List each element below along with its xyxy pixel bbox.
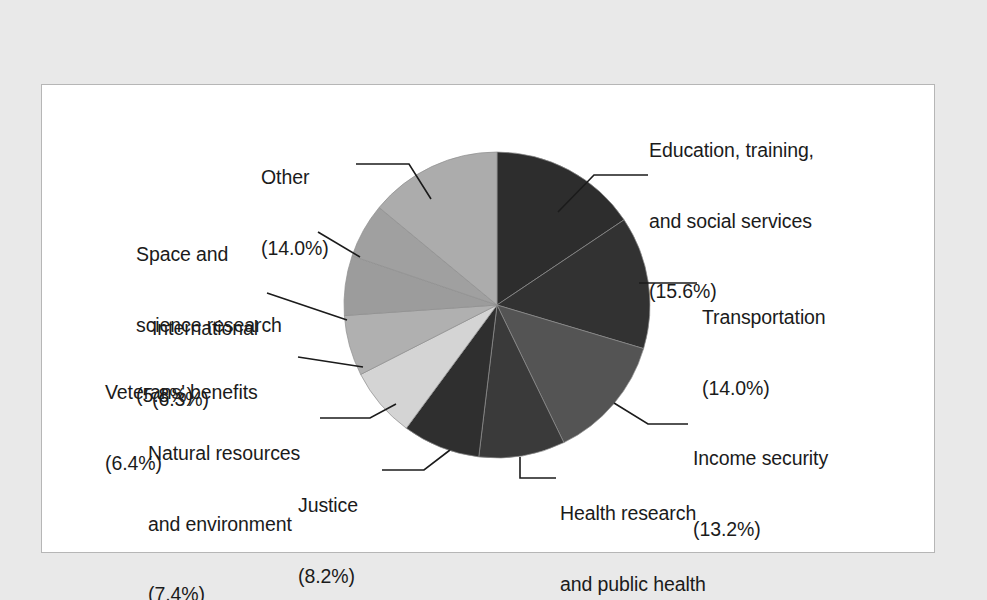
label-space-research-line2: science research xyxy=(136,314,282,338)
label-space-research-percent: (5.8%) xyxy=(136,384,282,408)
label-other-line1: Other xyxy=(261,166,329,190)
page-background: Education, training, and social services… xyxy=(0,0,987,600)
label-other: Other (14.0%) xyxy=(261,119,329,307)
label-justice: Justice (8.2%) xyxy=(298,447,358,600)
label-other-percent: (14.0%) xyxy=(261,237,329,261)
label-health-research-line1: Health research xyxy=(560,502,706,526)
label-education-line2: and social services xyxy=(649,210,814,234)
leader-line-justice xyxy=(382,450,450,470)
label-justice-line1: Justice xyxy=(298,494,358,518)
pie-slices xyxy=(344,152,650,458)
label-justice-percent: (8.2%) xyxy=(298,565,358,589)
leader-line-income-security xyxy=(614,403,688,424)
label-transportation-line1: Transportation xyxy=(702,306,826,330)
label-space-research-line1: Space and xyxy=(136,243,282,267)
leader-line-veterans-benefits xyxy=(298,357,363,367)
label-income-security-line1: Income security xyxy=(693,447,828,471)
leader-line-health-research xyxy=(520,457,556,478)
label-income-security: Income security (13.2%) xyxy=(693,400,828,588)
label-income-security-percent: (13.2%) xyxy=(693,518,828,542)
label-health-research-line2: and public health xyxy=(560,573,706,597)
pie-chart: Education, training, and social services… xyxy=(0,0,987,600)
label-health-research: Health research and public health (9.1%) xyxy=(560,455,706,600)
label-space-research: Space and science research (5.8%) xyxy=(136,196,282,455)
label-natural-resources-percent: (7.4%) xyxy=(148,583,300,600)
label-education-line1: Education, training, xyxy=(649,139,814,163)
label-transportation-percent: (14.0%) xyxy=(702,377,826,401)
